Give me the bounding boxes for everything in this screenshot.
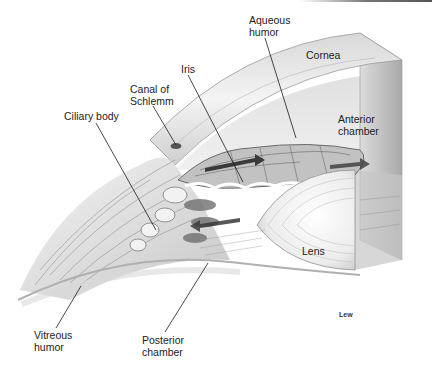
label-anterior-chamber: Anterior chamber — [338, 113, 379, 137]
label-aqueous-humor: Aqueous humor — [249, 14, 290, 38]
label-vitreous-humor: Vitreous humor — [34, 329, 72, 353]
label-posterior-chamber: Posterior chamber — [142, 334, 184, 358]
artist-signature: Lew — [339, 311, 353, 318]
label-ciliary-body: Ciliary body — [64, 110, 119, 122]
label-iris: Iris — [181, 63, 195, 75]
label-lens: Lens — [302, 245, 325, 257]
eye-cross-section-drawing — [0, 0, 432, 372]
eye-anatomy-illustration: Aqueous humorCorneaIrisCanal of SchlemmC… — [0, 0, 432, 372]
label-canal-of-schlemm: Canal of Schlemm — [130, 83, 174, 107]
label-cornea: Cornea — [306, 49, 340, 61]
